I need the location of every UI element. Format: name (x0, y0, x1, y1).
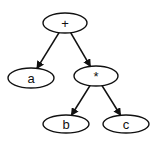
edge-plus-to-times (71, 33, 91, 67)
edge-times-to-b (71, 86, 90, 116)
node-c: c (103, 115, 149, 133)
node-a: a (8, 68, 54, 88)
edge-plus-to-a (37, 33, 59, 69)
node-label: b (62, 117, 69, 132)
expression-tree-diagram: +a*bc (0, 0, 157, 142)
node-label: c (123, 117, 130, 132)
node-label: + (61, 16, 69, 31)
node-times: * (74, 66, 118, 86)
node-plus: + (43, 13, 87, 33)
node-label: a (27, 71, 35, 86)
nodes: +a*bc (8, 13, 149, 133)
edge-times-to-c (102, 86, 121, 116)
node-b: b (43, 115, 89, 133)
node-label: * (93, 69, 98, 84)
